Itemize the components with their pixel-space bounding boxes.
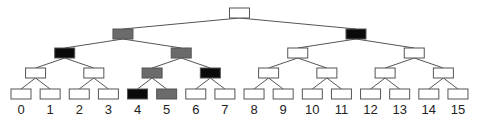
tree-edge	[79, 78, 94, 89]
tree-edge	[196, 78, 211, 89]
tree-edge	[152, 78, 167, 89]
tree-node	[317, 68, 337, 78]
leaf-label: 15	[443, 102, 473, 117]
leaf-node	[69, 89, 89, 99]
tree-edge	[210, 78, 225, 89]
leaf-node	[98, 89, 118, 99]
tree-edge	[239, 18, 356, 29]
leaf-label: 13	[385, 102, 415, 117]
leaf-label: 2	[64, 102, 94, 117]
leaf-label: 5	[152, 102, 182, 117]
leaf-label: 14	[414, 102, 444, 117]
tree-edge	[269, 78, 284, 89]
tree-node	[404, 48, 424, 58]
leaf-node	[11, 89, 31, 99]
leaf-label: 9	[268, 102, 298, 117]
tree-edge	[65, 58, 94, 68]
tree-edge	[443, 78, 458, 89]
tree-node	[200, 68, 220, 78]
tree-edge	[65, 39, 123, 48]
leaf-node	[302, 89, 322, 99]
tree-edge	[371, 78, 386, 89]
tree-edge	[356, 39, 414, 48]
tree-node	[171, 48, 191, 58]
tree-node	[84, 68, 104, 78]
tree-node	[288, 48, 308, 58]
leaf-label: 7	[210, 102, 240, 117]
leaf-label: 10	[297, 102, 327, 117]
tree-node	[142, 68, 162, 78]
tree-node	[55, 48, 75, 58]
tree-edge	[269, 58, 298, 68]
tree-node	[113, 29, 133, 39]
leaf-node	[244, 89, 264, 99]
tree-edge	[138, 78, 153, 89]
tree-edge	[298, 58, 327, 68]
leaf-node	[186, 89, 206, 99]
tree-edge	[123, 18, 240, 29]
leaf-node	[215, 89, 235, 99]
leaf-node	[128, 89, 148, 99]
tree-edge	[94, 78, 109, 89]
tree-edge	[181, 58, 210, 68]
leaf-node	[361, 89, 381, 99]
tree-edge	[385, 58, 414, 68]
leaf-node	[157, 89, 177, 99]
leaf-node	[40, 89, 60, 99]
leaf-node	[273, 89, 293, 99]
tree-node	[375, 68, 395, 78]
tree-node	[259, 68, 279, 78]
leaf-label: 11	[326, 102, 356, 117]
leaf-node	[331, 89, 351, 99]
tree-edge	[298, 39, 356, 48]
tree-edge	[429, 78, 444, 89]
tree-edge	[36, 58, 65, 68]
leaf-label: 4	[123, 102, 153, 117]
tree-node	[433, 68, 453, 78]
leaf-label: 8	[239, 102, 269, 117]
tree-node	[346, 29, 366, 39]
leaf-label: 1	[35, 102, 65, 117]
leaf-label: 0	[6, 102, 36, 117]
tree-edge	[36, 78, 51, 89]
leaf-node	[448, 89, 468, 99]
leaf-node	[390, 89, 410, 99]
leaf-node	[419, 89, 439, 99]
tree-edge	[414, 58, 443, 68]
tree-edge	[385, 78, 400, 89]
tree-edge	[152, 58, 181, 68]
tree-edge	[327, 78, 342, 89]
leaf-label: 3	[93, 102, 123, 117]
leaf-label: 12	[356, 102, 386, 117]
tree-edge	[254, 78, 269, 89]
tree-edge	[21, 78, 36, 89]
tree-node	[26, 68, 46, 78]
tree-edge	[312, 78, 327, 89]
tree-node	[229, 8, 249, 18]
leaf-label: 6	[181, 102, 211, 117]
tree-edge	[123, 39, 181, 48]
